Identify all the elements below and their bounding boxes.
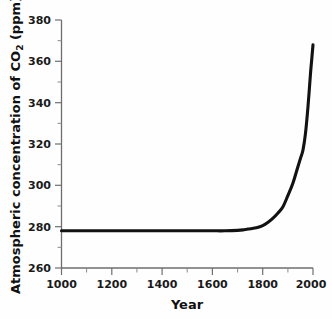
x-tick-label-1000: 1000 bbox=[46, 278, 77, 291]
x-tick-label-1800: 1800 bbox=[247, 278, 278, 291]
y-tick-label-280: 280 bbox=[28, 221, 51, 234]
y-tick-label-260: 260 bbox=[28, 262, 51, 275]
x-tick-label-1200: 1200 bbox=[96, 278, 127, 291]
y-tick-label-380: 380 bbox=[28, 14, 51, 27]
x-axis-title: Year bbox=[170, 297, 204, 312]
x-tick-label-1400: 1400 bbox=[147, 278, 178, 291]
y-axis-title-units: (ppm) bbox=[8, 0, 23, 45]
y-tick-label-300: 300 bbox=[28, 179, 51, 192]
y-tick-label-340: 340 bbox=[28, 97, 51, 110]
y-axis-title-main: Atmospheric concentration of CO bbox=[8, 51, 23, 294]
y-tick-label-360: 360 bbox=[28, 55, 51, 68]
y-axis-title-group: Atmospheric concentration of CO2 (ppm) bbox=[8, 0, 25, 294]
y-axis-title: Atmospheric concentration of CO2 (ppm) bbox=[8, 0, 25, 294]
x-tick-label-1600: 1600 bbox=[197, 278, 228, 291]
y-tick-label-320: 320 bbox=[28, 138, 51, 151]
chart-figure: 260 280 300 320 340 360 380 Atmospheric … bbox=[0, 0, 332, 319]
co2-concentration-line-chart: 260 280 300 320 340 360 380 Atmospheric … bbox=[0, 0, 332, 319]
x-tick-label-2000: 2000 bbox=[296, 278, 327, 291]
